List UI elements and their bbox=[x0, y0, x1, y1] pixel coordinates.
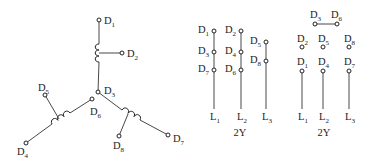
phase3-wire bbox=[140, 120, 168, 135]
phase2-coil-icon bbox=[51, 111, 70, 124]
terminal-d6-icon bbox=[239, 68, 243, 72]
phase1-wire bbox=[98, 62, 99, 92]
caption-2y-a: 2Y bbox=[234, 127, 247, 138]
diagram-canvas: D1D2D3D4D5D6D7D8D1D3D7L1D2D4D6L2D5D8L32Y… bbox=[0, 0, 369, 160]
label-d8: D8 bbox=[250, 54, 262, 68]
label-d2: D2 bbox=[225, 24, 237, 38]
terminal-d1-icon bbox=[300, 69, 304, 73]
phase3-tap-wire bbox=[119, 114, 128, 136]
terminal-d7-icon bbox=[212, 68, 216, 72]
terminal-d5-icon bbox=[264, 40, 268, 44]
terminal-d6-icon bbox=[335, 22, 339, 26]
label-d4: D4 bbox=[318, 56, 330, 70]
label-d6: D6 bbox=[90, 106, 102, 120]
phase1-coil-icon bbox=[95, 44, 99, 62]
terminal-d3-icon bbox=[313, 22, 317, 26]
label-d1: D1 bbox=[104, 15, 116, 29]
label-d8: D8 bbox=[344, 33, 356, 47]
terminal-d7-icon bbox=[166, 133, 170, 137]
line-label-l1: L1 bbox=[210, 111, 220, 125]
phase2-wire bbox=[70, 99, 92, 113]
terminal-d1-icon bbox=[97, 18, 101, 22]
line-label-l3: L3 bbox=[345, 111, 355, 125]
terminal-d4-icon bbox=[24, 141, 28, 145]
label-d3: D3 bbox=[198, 45, 210, 59]
label-d2: D2 bbox=[127, 48, 139, 62]
label-d6: D6 bbox=[225, 63, 237, 77]
label-d7: D7 bbox=[198, 63, 210, 77]
terminal-d3-icon bbox=[212, 50, 216, 54]
label-d2: D2 bbox=[297, 33, 309, 47]
label-d8: D8 bbox=[113, 140, 125, 154]
terminal-d8-icon bbox=[264, 59, 268, 63]
label-d6: D6 bbox=[331, 9, 343, 23]
line-label-l2: L2 bbox=[237, 111, 247, 125]
terminal-d3-icon bbox=[96, 90, 100, 94]
winding-connection-diagram: D1D2D3D4D5D6D7D8D1D3D7L1D2D4D6L2D5D8L32Y… bbox=[0, 0, 369, 160]
caption-2y-b: 2Y bbox=[318, 127, 331, 138]
label-d4: D4 bbox=[17, 146, 29, 160]
terminal-d4-icon bbox=[239, 50, 243, 54]
label-d7: D7 bbox=[344, 56, 356, 70]
terminal-d2-icon bbox=[120, 51, 124, 55]
label-d7: D7 bbox=[173, 133, 185, 147]
line-label-l2: L2 bbox=[319, 111, 329, 125]
label-d5: D5 bbox=[318, 33, 330, 47]
terminal-d2-icon bbox=[300, 45, 304, 49]
phase2-tap-wire bbox=[45, 95, 59, 119]
label-d4: D4 bbox=[225, 45, 237, 59]
line-label-l3: L3 bbox=[262, 111, 272, 125]
terminal-d6-icon bbox=[90, 97, 94, 101]
label-d3: D3 bbox=[310, 9, 322, 23]
terminal-d7-icon bbox=[347, 69, 351, 73]
terminal-d5-icon bbox=[321, 45, 325, 49]
phase3-coil-icon bbox=[122, 108, 141, 120]
phase2-wire bbox=[26, 124, 52, 143]
terminal-d4-icon bbox=[321, 69, 325, 73]
terminal-d8-icon bbox=[117, 134, 121, 138]
terminal-d1-icon bbox=[212, 29, 216, 33]
terminal-d2-icon bbox=[239, 29, 243, 33]
line-label-l1: L1 bbox=[298, 111, 308, 125]
label-d1: D1 bbox=[198, 24, 210, 38]
terminal-d8-icon bbox=[347, 45, 351, 49]
label-d1: D1 bbox=[297, 56, 309, 70]
label-d3: D3 bbox=[104, 85, 116, 99]
label-d5: D5 bbox=[250, 35, 262, 49]
